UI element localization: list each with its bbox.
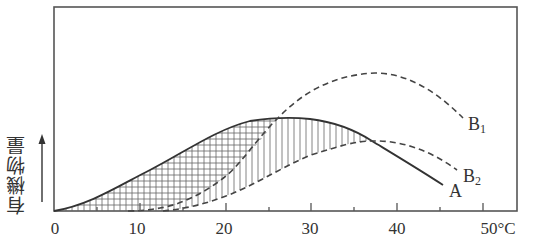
x-tick-40: 40 xyxy=(389,219,406,238)
label-b1: B1 xyxy=(468,114,486,136)
x-tick-50: 50°C xyxy=(480,219,515,238)
curve-b2 xyxy=(163,141,457,211)
x-axis-ticks xyxy=(97,203,483,211)
plot-frame xyxy=(54,7,517,211)
chart: 0 10 20 30 40 50°C B1 B2 A xyxy=(0,0,536,247)
vertical-hatch xyxy=(60,0,366,211)
label-a: A xyxy=(449,181,462,201)
x-tick-30: 30 xyxy=(302,219,319,238)
label-b2: B2 xyxy=(463,166,481,188)
curve-a xyxy=(54,118,443,211)
x-tick-20: 20 xyxy=(216,219,233,238)
curve-b1 xyxy=(128,73,463,211)
x-tick-0: 0 xyxy=(51,219,60,238)
x-tick-10: 10 xyxy=(129,219,146,238)
y-axis-arrow-icon xyxy=(39,134,46,202)
